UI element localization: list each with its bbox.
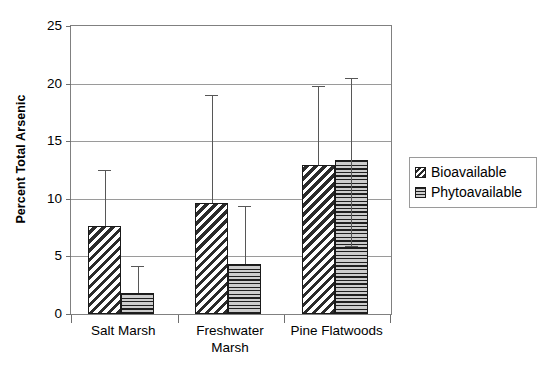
error-bar-line [351, 78, 352, 246]
y-axis-tick-label: 0 [54, 307, 62, 321]
legend-swatch-icon [415, 187, 426, 198]
error-bar-cap-upper [312, 86, 325, 87]
x-axis-category-label-line: Marsh [177, 339, 284, 356]
error-bar-line [212, 95, 213, 203]
x-axis-category-label: Salt Marsh [70, 322, 177, 339]
bar-chart-figure: Percent Total Arsenic 0510152025 Salt Ma… [0, 0, 544, 377]
error-bar-line [138, 266, 139, 294]
y-axis-tick-mark [66, 26, 71, 27]
bar [302, 165, 335, 314]
y-axis-tick-label: 15 [47, 134, 62, 148]
error-bar-cap-upper [205, 95, 218, 96]
error-bar-cap-lower [345, 246, 358, 247]
error-bar-cap-upper [98, 170, 111, 171]
y-axis-tick-label: 25 [47, 19, 62, 33]
y-axis-tick-mark [66, 141, 71, 142]
error-bar-cap-upper [345, 78, 358, 79]
y-axis-tick-mark [66, 199, 71, 200]
x-axis-category-label-line: Freshwater [177, 322, 284, 339]
x-axis-tick-mark [390, 315, 391, 323]
x-axis-category-label-line: Salt Marsh [70, 322, 177, 339]
bar [195, 203, 228, 314]
y-axis-title-text: Percent Total Arsenic [14, 94, 28, 223]
error-bar-line [105, 170, 106, 226]
y-axis-tick-mark [66, 84, 71, 85]
error-bar-line [245, 206, 246, 265]
y-axis-title: Percent Total Arsenic [6, 0, 36, 318]
legend-item: Phytoavailable [415, 182, 532, 202]
y-axis-tick-label: 10 [47, 192, 62, 206]
legend-swatch-icon [415, 167, 426, 178]
gridline [71, 141, 391, 142]
bar [121, 293, 154, 314]
bar [88, 226, 121, 314]
x-axis-category-label: FreshwaterMarsh [177, 322, 284, 356]
x-axis-category-label-line: Pine Flatwoods [283, 322, 390, 339]
y-axis-tick-label: 20 [47, 77, 62, 91]
y-axis-tick-mark [66, 256, 71, 257]
chart-legend: BioavailablePhytoavailable [409, 157, 537, 208]
error-bar-cap-upper [131, 266, 144, 267]
x-axis-category-label: Pine Flatwoods [283, 322, 390, 339]
plot-area: 0510152025 [70, 25, 392, 315]
gridline [71, 84, 391, 85]
legend-label: Bioavailable [431, 165, 507, 179]
error-bar-cap-upper [238, 206, 251, 207]
legend-label: Phytoavailable [431, 185, 522, 199]
legend-item: Bioavailable [415, 162, 532, 182]
bar [228, 264, 261, 314]
error-bar-line [318, 86, 319, 165]
y-axis-tick-label: 5 [54, 250, 62, 264]
